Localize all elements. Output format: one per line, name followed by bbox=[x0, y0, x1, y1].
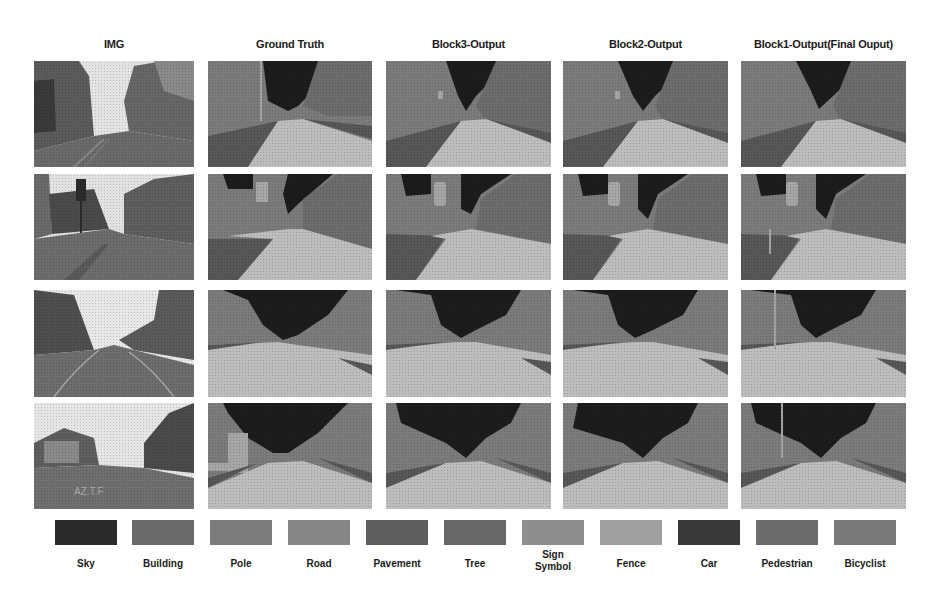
block1-output-row-2 bbox=[741, 174, 906, 280]
block2-output-row-2 bbox=[563, 174, 728, 280]
block3-output-row-4 bbox=[386, 403, 551, 509]
legend-label-fence: Fence bbox=[586, 558, 676, 570]
ground-truth-row-2 bbox=[208, 174, 372, 280]
block1-output-row-4 bbox=[741, 403, 906, 509]
legend-swatch-sky bbox=[55, 520, 117, 545]
ground-truth-row-4 bbox=[208, 403, 372, 509]
legend-swatch-pole bbox=[210, 520, 272, 545]
block1-output-row-3 bbox=[741, 290, 906, 397]
svg-text:AZ.T.F: AZ.T.F bbox=[74, 486, 103, 497]
legend-label-tree: Tree bbox=[430, 558, 520, 570]
column-title-block1: Block1-Output(Final Ouput) bbox=[741, 38, 906, 50]
block2-output-row-1 bbox=[563, 61, 728, 167]
legend-label-pedestrian: Pedestrian bbox=[742, 558, 832, 570]
column-title-block3: Block3-Output bbox=[386, 38, 551, 50]
input-photo-row-1 bbox=[34, 61, 194, 167]
legend-swatch-tree bbox=[444, 520, 506, 545]
legend-label-pole: Pole bbox=[196, 558, 286, 570]
legend-label-bicyclist: Bicyclist bbox=[820, 558, 910, 570]
block3-output-row-2 bbox=[386, 174, 551, 280]
legend-swatch-building bbox=[132, 520, 194, 545]
block1-output-row-1 bbox=[741, 61, 906, 167]
legend-swatch-sign-symbol bbox=[522, 520, 584, 545]
legend-label-sign-symbol: Sign Symbol bbox=[508, 549, 598, 573]
legend-label-road: Road bbox=[274, 558, 364, 570]
block3-output-row-3 bbox=[386, 290, 551, 397]
block2-output-row-3 bbox=[563, 290, 728, 397]
legend-swatch-fence bbox=[600, 520, 662, 545]
legend-swatch-car bbox=[678, 520, 740, 545]
input-photo-row-3 bbox=[34, 290, 194, 397]
legend-label-car: Car bbox=[664, 558, 754, 570]
column-title-img: IMG bbox=[34, 38, 194, 50]
input-photo-row-2 bbox=[34, 174, 194, 280]
block3-output-row-1 bbox=[386, 61, 551, 167]
block2-output-row-4 bbox=[563, 403, 728, 509]
legend-label-building: Building bbox=[118, 558, 208, 570]
legend-label-pavement: Pavement bbox=[352, 558, 442, 570]
column-title-ground-truth: Ground Truth bbox=[208, 38, 372, 50]
column-title-block2: Block2-Output bbox=[563, 38, 728, 50]
legend-swatch-bicyclist bbox=[834, 520, 896, 545]
ground-truth-row-1 bbox=[208, 61, 372, 167]
input-photo-row-4: AZ.T.F bbox=[34, 403, 194, 509]
legend-swatch-pedestrian bbox=[756, 520, 818, 545]
legend-swatch-road bbox=[288, 520, 350, 545]
ground-truth-row-3 bbox=[208, 290, 372, 397]
legend-swatch-pavement bbox=[366, 520, 428, 545]
